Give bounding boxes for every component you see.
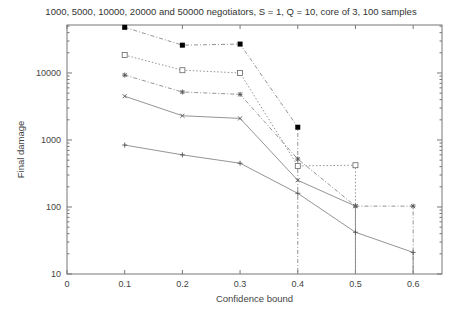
data-point-star <box>295 157 300 162</box>
data-point-star <box>180 90 185 95</box>
data-point-filled-square <box>122 25 127 30</box>
y-tick-label: 10000 <box>36 68 61 78</box>
series-line-3 <box>125 96 356 274</box>
data-point-star <box>411 204 416 209</box>
data-point-star <box>122 73 127 78</box>
x-tick-label: 0.5 <box>349 279 362 289</box>
x-tick-label: 0.1 <box>118 279 131 289</box>
x-tick-label: 0.2 <box>176 279 189 289</box>
y-axis-label: Final damage <box>15 121 26 179</box>
data-point-star <box>238 92 243 97</box>
series-line-0 <box>125 27 298 274</box>
data-point-filled-square <box>295 125 300 130</box>
data-point-open-square <box>295 163 300 168</box>
data-point-plus <box>295 191 300 196</box>
x-axis-label: Confidence bound <box>216 293 293 304</box>
data-point-open-square <box>238 70 243 75</box>
data-point-open-square <box>122 53 127 58</box>
data-point-open-square <box>353 163 358 168</box>
data-point-filled-square <box>180 43 185 48</box>
data-point-plus <box>238 161 243 166</box>
x-tick-label: 0.4 <box>292 279 305 289</box>
series-line-4 <box>125 145 413 274</box>
line-chart: 00.10.20.30.40.50.610100100010000Confide… <box>0 0 462 310</box>
y-tick-label: 1000 <box>41 135 61 145</box>
y-tick-label: 100 <box>46 202 61 212</box>
y-tick-label: 10 <box>51 269 61 279</box>
series-line-2 <box>125 75 413 274</box>
x-tick-label: 0.6 <box>407 279 420 289</box>
data-point-plus <box>353 230 358 235</box>
data-point-plus <box>411 250 416 255</box>
data-point-plus <box>122 143 127 148</box>
x-tick-label: 0 <box>64 279 69 289</box>
data-point-plus <box>180 152 185 157</box>
plot-frame <box>67 25 442 274</box>
data-point-filled-square <box>238 42 243 47</box>
data-point-open-square <box>180 68 185 73</box>
x-tick-label: 0.3 <box>234 279 247 289</box>
